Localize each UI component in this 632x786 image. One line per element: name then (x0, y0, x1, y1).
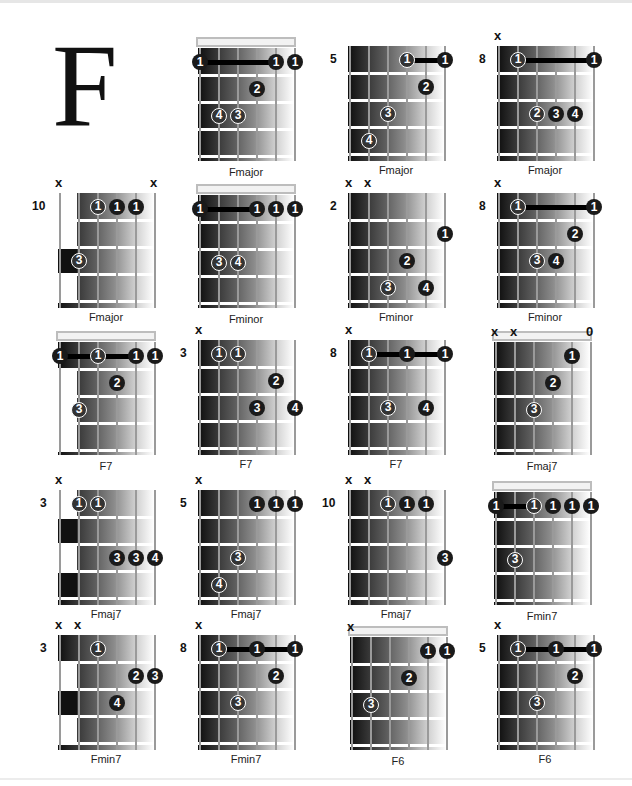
string-line (552, 342, 554, 455)
finger-dot: 1 (586, 199, 602, 215)
finger-dot: 1 (192, 54, 208, 70)
fret-line (348, 543, 444, 546)
finger-dot: 3 (526, 402, 542, 418)
chord-diagram: 11234x8Fminor (497, 193, 632, 343)
string-line (536, 46, 538, 161)
fret-line (198, 661, 294, 664)
muted-string-icon: x (494, 617, 501, 632)
chord-name: F7 (58, 460, 154, 472)
finger-dot: 2 (399, 253, 415, 269)
string-line (218, 195, 220, 308)
fret-line (350, 744, 446, 747)
chord-diagram: 111113Fmin7 (494, 482, 632, 632)
chord-diagram: 111243Fmajor (198, 38, 348, 188)
string-line (154, 490, 156, 605)
chord-diagram: 1123xF6 (350, 627, 500, 777)
finger-dot: 1 (109, 199, 125, 215)
fret-line (497, 742, 593, 745)
fret-line (58, 368, 154, 371)
string-line (536, 193, 538, 308)
fret-line (58, 422, 154, 425)
finger-dot: 4 (567, 106, 583, 122)
fret-line (348, 72, 444, 75)
chord-name: Fmajor (348, 164, 444, 176)
finger-dot: 2 (109, 375, 125, 391)
nut (492, 481, 592, 491)
fret-line (494, 395, 590, 398)
fret-line (497, 715, 593, 718)
fret-line (58, 715, 154, 718)
finger-dot: 4 (147, 550, 163, 566)
fret-line (198, 155, 294, 158)
muted-string-icon: x (510, 324, 517, 339)
fret-number: 2 (330, 199, 337, 213)
barre-bar (199, 60, 275, 65)
finger-dot: 1 (128, 199, 144, 215)
finger-dot: 1 (192, 201, 208, 217)
finger-dot: 4 (211, 108, 227, 124)
finger-dot: 1 (586, 52, 602, 68)
fret-line (58, 742, 154, 745)
fret-line (198, 742, 294, 745)
string-line (256, 340, 258, 455)
finger-dot: 4 (361, 133, 377, 149)
finger-dot: 3 (529, 253, 545, 269)
finger-dot: 1 (287, 201, 303, 217)
string-line (237, 195, 239, 308)
string-line (514, 342, 516, 455)
string-line (368, 490, 370, 605)
fret-line (494, 422, 590, 425)
chord-name: Fmaj7 (348, 608, 444, 620)
finger-dot: 1 (361, 346, 377, 362)
top-divider (0, 0, 632, 3)
muted-string-icon: x (347, 619, 354, 634)
nut (348, 626, 448, 636)
finger-dot: 1 (418, 496, 434, 512)
string-line (444, 193, 446, 308)
finger-dot: 1 (147, 348, 163, 364)
fret-line (348, 393, 444, 396)
string-line (294, 340, 296, 455)
string-line (154, 193, 156, 308)
fret-line (348, 570, 444, 573)
finger-dot: 2 (567, 668, 583, 684)
finger-dot: 1 (510, 52, 526, 68)
finger-dot: 1 (380, 496, 396, 512)
fret-line (198, 688, 294, 691)
fret-line (348, 300, 444, 303)
chord-diagram: 11134x8F7 (348, 340, 498, 490)
fret-line (58, 688, 154, 691)
string-line (349, 490, 351, 605)
muted-string-icon: x (195, 617, 202, 632)
fret-line (348, 246, 444, 249)
chord-name: Fmaj7 (494, 460, 590, 472)
fret-line (198, 74, 294, 77)
string-line (574, 193, 576, 308)
finger-dot: 1 (583, 498, 599, 514)
chord-diagram: 11134x5Fmaj7 (198, 490, 348, 640)
finger-dot: 4 (211, 577, 227, 593)
muted-string-icon: x (494, 175, 501, 190)
fret-number: 10 (322, 496, 335, 510)
chord-name: Fmajor (58, 311, 154, 323)
chord-diagram: 11123x5F6 (497, 635, 632, 785)
string-line (78, 193, 80, 308)
fret-line (198, 248, 294, 251)
fret-line (58, 395, 154, 398)
fret-number: 3 (180, 346, 187, 360)
fret-line (497, 99, 593, 102)
fret-line (348, 126, 444, 129)
finger-dot: 3 (109, 550, 125, 566)
finger-dot: 1 (526, 498, 542, 514)
string-line (256, 48, 258, 161)
muted-string-icon: x (55, 617, 62, 632)
finger-dot: 3 (380, 400, 396, 416)
chord-diagram: 11123x8Fmin7 (198, 635, 348, 785)
fret-number: 8 (479, 199, 486, 213)
string-line (536, 635, 538, 750)
string-line (275, 635, 277, 750)
fret-line (497, 153, 593, 156)
finger-dot: 1 (268, 496, 284, 512)
string-line (349, 340, 351, 455)
finger-dot: 1 (586, 641, 602, 657)
